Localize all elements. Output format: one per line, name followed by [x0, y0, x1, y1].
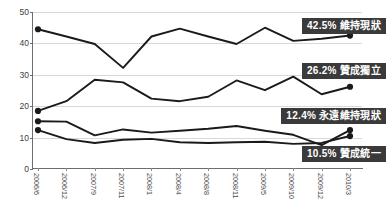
callout-percentage: 26.2% [307, 65, 337, 76]
series-endpoint-marker [347, 84, 353, 90]
callout-series-name: 維持現狀 [340, 20, 381, 31]
series-endpoint-marker [35, 26, 41, 32]
callout-percentage: 10.5% [307, 148, 337, 159]
series-callout-label: 26.2%贊成獨立 [302, 63, 386, 79]
callout-percentage: 42.5% [307, 20, 337, 31]
series-endpoint-marker [347, 133, 353, 139]
callout-series-name: 贊成獨立 [340, 65, 381, 76]
line-chart: 01020304050 2006/62006/122007/92007/1120… [0, 0, 392, 213]
series-endpoint-marker [35, 108, 41, 114]
series-endpoint-marker [35, 118, 41, 124]
series-callout-label: 12.4%永遠維持現狀 [281, 108, 386, 124]
series-callout-label: 10.5%贊成統一 [302, 146, 386, 162]
series-endpoint-marker [347, 127, 353, 133]
callout-series-name: 永遠維持現狀 [319, 110, 381, 121]
callout-series-name: 贊成統一 [340, 148, 381, 159]
series-callout-label: 42.5%維持現狀 [302, 18, 386, 34]
series-endpoint-marker [35, 127, 41, 133]
series-line [38, 130, 350, 144]
series-line [38, 77, 350, 111]
callout-percentage: 12.4% [286, 110, 316, 121]
